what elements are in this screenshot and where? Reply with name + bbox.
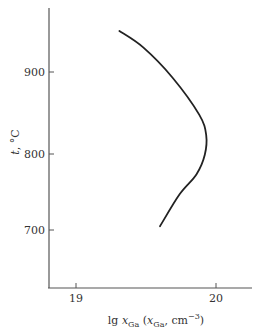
y-tick-label-800: 800	[24, 148, 45, 161]
chart: 900 800 700 19 20 t, °C lg xGa (xGa, cm−…	[0, 0, 260, 330]
data-curve	[119, 31, 206, 226]
y-tick-label-700: 700	[24, 224, 45, 237]
y-tick-label-900: 900	[24, 66, 45, 79]
x-axis-label: lg xGa (xGa, cm−3)	[108, 312, 204, 329]
x-tick-label-19: 19	[69, 292, 83, 305]
x-tick-label-20: 20	[209, 292, 223, 305]
y-axis-label: t, °C	[9, 129, 22, 154]
